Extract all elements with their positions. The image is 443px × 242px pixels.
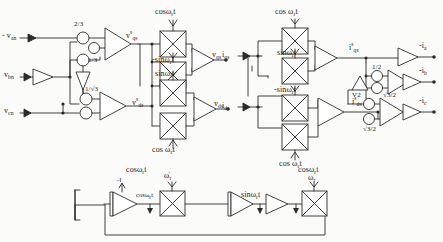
output-dot-ib bbox=[432, 80, 436, 84]
output-label-ic: -ic bbox=[419, 97, 427, 105]
bottom-label-neg-one: -l bbox=[117, 177, 121, 184]
multiplier-cos-4 bbox=[282, 124, 308, 160]
wire-van-input bbox=[20, 34, 78, 42]
gain-label-v2: V2 bbox=[352, 92, 361, 99]
bottom-label-sin: sinωrt bbox=[241, 191, 260, 199]
wire-vbn-input bbox=[20, 73, 33, 81]
arrow-down-2 bbox=[257, 208, 263, 214]
gain-node-v2-ic bbox=[364, 99, 375, 110]
multiplier-bottom-2 bbox=[302, 182, 327, 216]
multiplier-label-sin-2: sinωrt bbox=[277, 49, 296, 57]
wire-vcn-input bbox=[20, 109, 79, 117]
amp-ids-sum bbox=[318, 98, 344, 126]
gain-node-mid-upper bbox=[89, 43, 100, 54]
amp-ic-out bbox=[403, 104, 421, 120]
signal-label-vqs-s: vsqs bbox=[126, 32, 138, 40]
signal-label-ids-s: isds bbox=[352, 98, 362, 106]
diagram-canvas: .w{fill:none;stroke:#2b2b2b;stroke-width… bbox=[0, 0, 443, 242]
gain-label-half: 1/2 bbox=[372, 64, 381, 71]
multiplier-label-sin-1: sinωrt bbox=[155, 70, 174, 78]
diagram-svg: .w{fill:none;stroke:#2b2b2b;stroke-width… bbox=[0, 0, 443, 242]
bottom-label-cos-top: cosωrt bbox=[126, 166, 147, 174]
node-vcn-branch bbox=[61, 102, 64, 105]
arrow-down-3 bbox=[293, 208, 299, 214]
bottom-label-cos-inline: cosωrt bbox=[136, 192, 153, 199]
amp-bottom-3 bbox=[266, 194, 288, 214]
amp-ic-sum bbox=[380, 98, 403, 126]
output-dot-ic bbox=[432, 110, 436, 114]
gain-node-2-3 bbox=[77, 32, 89, 44]
input-label-van: - van bbox=[2, 32, 16, 40]
multiplier-bottom-1 bbox=[160, 182, 185, 216]
multiplier-label-cos-1: cosωrt bbox=[155, 8, 176, 16]
amp-vds-out bbox=[194, 97, 216, 121]
multiplier-label-nsin-1: -sinωrt bbox=[152, 56, 174, 64]
gain-node-sqrt32-a bbox=[372, 83, 383, 94]
amp-vds-sum bbox=[100, 92, 126, 120]
output-dot-ia bbox=[432, 55, 436, 59]
multiplier-label-cos-3: cos ωrt bbox=[275, 8, 298, 16]
gain-node-sqrt32-b bbox=[364, 114, 375, 125]
amp-iqs-sum bbox=[315, 46, 337, 70]
gain-node-1-sqrt3-upper bbox=[80, 93, 92, 105]
amp-vqs-out bbox=[192, 48, 214, 72]
wire-iqs-branches bbox=[258, 41, 282, 78]
amp-vbn-buffer bbox=[33, 69, 53, 85]
multiplier-label-nsin-2: -sinωrt bbox=[274, 86, 296, 94]
output-label-ia: -ia bbox=[419, 42, 427, 50]
multiplier-cos-2 bbox=[160, 113, 186, 148]
input-label-ids: ids bbox=[222, 102, 230, 110]
gain-label-1-sqrt3: 1/√3 bbox=[85, 86, 98, 93]
bottom-label-omega-dot: ω̇r bbox=[164, 172, 171, 180]
gain-label-sqrt32-b: √3/2 bbox=[363, 126, 376, 133]
output-label-ib: -ib bbox=[419, 67, 427, 75]
amp-ib-out bbox=[403, 74, 421, 90]
wire-ib-gains bbox=[383, 76, 389, 88]
node-bus-2 bbox=[151, 85, 154, 88]
gain-label-sqrt32-a: √3/2 bbox=[383, 92, 396, 99]
amp-integrator-1 bbox=[113, 192, 137, 216]
node-iqs-s-b1 bbox=[365, 75, 368, 78]
wire-sqrt3-to-amp bbox=[92, 99, 100, 113]
multiplier-cos-1 bbox=[160, 20, 186, 57]
arrow-down-1 bbox=[147, 208, 153, 214]
output-label-vqs: vqs bbox=[212, 51, 221, 59]
input-label-vbn: vbn bbox=[4, 71, 14, 79]
gain-node-1-sqrt3-lower bbox=[80, 107, 92, 119]
gain-node-half bbox=[372, 71, 383, 82]
signal-label-vds-s: vsds bbox=[132, 99, 144, 107]
signal-label-iqs-s: isqs bbox=[349, 44, 359, 52]
input-label-iqs: iqs bbox=[222, 51, 230, 59]
multiplier-label-cos-2: cos ωrt bbox=[152, 146, 175, 154]
amp-ia-out bbox=[398, 48, 418, 66]
gain-label-2-3: 2/3 bbox=[74, 21, 83, 28]
input-label-vcn: vcn bbox=[4, 107, 14, 115]
bottom-label-omega-r: ωr bbox=[308, 174, 315, 182]
gain-label-1-3: 1/3 bbox=[88, 57, 97, 64]
